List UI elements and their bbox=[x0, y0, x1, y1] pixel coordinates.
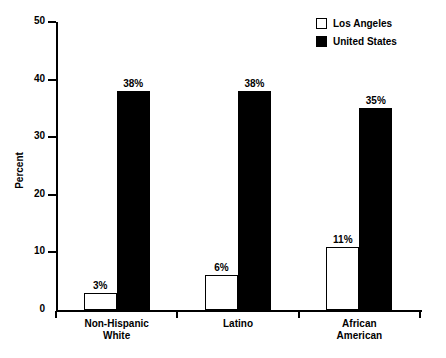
legend-item: United States bbox=[316, 36, 397, 47]
legend-label: United States bbox=[333, 36, 397, 47]
y-tick-mark bbox=[48, 251, 56, 253]
x-category-label: Latino bbox=[178, 318, 298, 330]
bar bbox=[238, 91, 271, 310]
y-tick-label: 50 bbox=[19, 16, 45, 26]
y-tick: 0 bbox=[0, 309, 56, 311]
bar bbox=[359, 108, 392, 310]
legend-label: Los Angeles bbox=[333, 18, 392, 29]
legend-item: Los Angeles bbox=[316, 18, 397, 29]
y-tick-label: 40 bbox=[19, 74, 45, 84]
y-tick: 30 bbox=[0, 136, 56, 138]
cropped-title-remnant bbox=[10, 0, 210, 3]
bar bbox=[84, 293, 117, 310]
bar-value-label: 38% bbox=[109, 78, 158, 89]
y-tick-mark bbox=[48, 136, 56, 138]
x-category-label: Non-Hispanic White bbox=[57, 318, 177, 342]
y-tick: 40 bbox=[0, 79, 56, 81]
y-tick: 20 bbox=[0, 194, 56, 196]
legend: Los AngelesUnited States bbox=[316, 18, 397, 54]
x-tick-mark bbox=[298, 311, 300, 318]
x-tick-mark bbox=[176, 311, 178, 318]
y-tick-label: 30 bbox=[19, 131, 45, 141]
x-category-label: African American bbox=[299, 318, 419, 342]
y-tick-mark bbox=[48, 21, 56, 23]
y-tick-mark bbox=[48, 194, 56, 196]
x-tick-mark bbox=[419, 311, 421, 318]
legend-swatch-icon bbox=[316, 18, 327, 29]
y-tick: 50 bbox=[0, 21, 56, 23]
y-axis-line bbox=[56, 22, 58, 312]
bar bbox=[117, 91, 150, 310]
bar bbox=[205, 275, 238, 310]
y-tick-label: 10 bbox=[19, 246, 45, 256]
bar-value-label: 38% bbox=[230, 78, 279, 89]
y-tick-label: 20 bbox=[19, 189, 45, 199]
x-tick-mark bbox=[55, 311, 57, 318]
x-axis-line bbox=[56, 310, 422, 312]
y-tick: 10 bbox=[0, 251, 56, 253]
y-tick-mark bbox=[48, 79, 56, 81]
bar-chart: Percent 01020304050 3%38%6%38%11%35% Non… bbox=[0, 0, 446, 358]
legend-swatch-icon bbox=[316, 36, 327, 47]
bar bbox=[326, 247, 359, 310]
y-tick-label: 0 bbox=[19, 304, 45, 314]
bar-value-label: 35% bbox=[351, 95, 400, 106]
